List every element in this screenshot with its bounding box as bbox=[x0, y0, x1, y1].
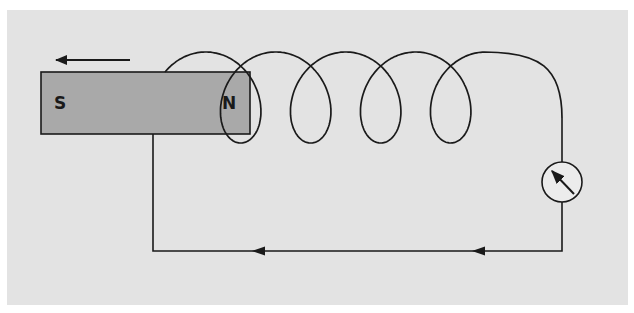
bar-magnet: S N bbox=[41, 72, 250, 134]
galvanometer bbox=[542, 162, 582, 202]
north-pole-label: N bbox=[222, 93, 236, 113]
electromagnetic-induction-diagram: S N bbox=[0, 0, 634, 313]
current-arrow-icon bbox=[472, 247, 485, 256]
south-pole-label: S bbox=[54, 93, 66, 113]
current-arrow-icon bbox=[252, 247, 265, 256]
magnet-body bbox=[41, 72, 250, 134]
circuit-wire bbox=[153, 118, 562, 251]
